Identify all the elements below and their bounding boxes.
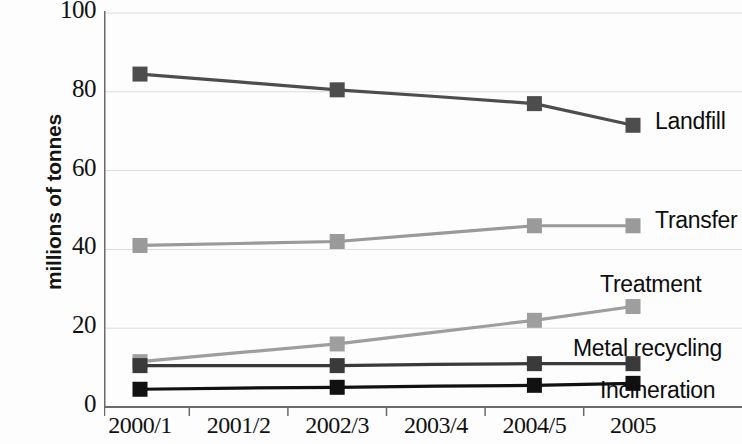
data-point-marker: [330, 380, 345, 395]
data-point-marker: [626, 218, 641, 233]
line-chart: millions of tonnes 100806040200 2000/120…: [0, 0, 742, 444]
series-label-metal-recycling: Metal recycling: [573, 335, 722, 362]
y-tick-label-40: 40: [44, 232, 96, 260]
data-point-marker: [330, 358, 345, 373]
y-tick-label-60: 60: [44, 154, 96, 182]
series-metal-recycling: [133, 356, 641, 373]
data-point-marker: [133, 358, 148, 373]
series-label-transfer: Transfer: [655, 207, 737, 234]
data-point-marker: [527, 356, 542, 371]
series-treatment: [133, 299, 641, 369]
data-point-marker: [330, 336, 345, 351]
data-point-marker: [527, 313, 542, 328]
y-tick-label-0: 0: [44, 390, 96, 418]
series-label-treatment: Treatment: [600, 271, 701, 298]
y-tick-label-80: 80: [44, 75, 96, 103]
data-point-marker: [133, 382, 148, 397]
series-line: [140, 307, 633, 362]
data-point-marker: [133, 238, 148, 253]
series-label-incineration: Incineration: [600, 377, 715, 404]
series-line: [140, 74, 633, 125]
data-point-marker: [527, 96, 542, 111]
data-point-marker: [527, 218, 542, 233]
series-label-landfill: Landfill: [655, 108, 726, 135]
data-point-marker: [626, 118, 641, 133]
series-transfer: [133, 218, 641, 253]
y-tick-label-20: 20: [44, 311, 96, 339]
series-landfill: [133, 67, 641, 133]
data-point-marker: [330, 82, 345, 97]
data-point-marker: [527, 378, 542, 393]
series-incineration: [133, 376, 641, 397]
data-point-marker: [133, 67, 148, 82]
y-axis-tick-labels: 100806040200: [20, 0, 96, 444]
series-line: [140, 226, 633, 246]
data-point-marker: [626, 299, 641, 314]
data-point-marker: [330, 234, 345, 249]
series-line: [140, 383, 633, 389]
y-tick-label-100: 100: [44, 0, 96, 24]
series-line: [140, 364, 633, 366]
